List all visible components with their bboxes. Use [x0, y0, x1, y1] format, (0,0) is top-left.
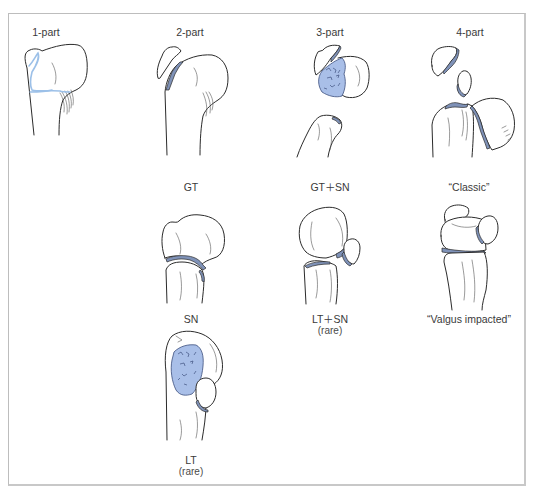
gt-caption: GT [184, 181, 199, 193]
two-part-sn-humerus-illustration [157, 47, 228, 155]
fracture-illustrations [0, 0, 535, 497]
one-part-humerus-illustration [25, 44, 87, 135]
lt-sn-caption: LT＋SN (rare) [312, 313, 348, 337]
one-part-label: 1-part [32, 26, 59, 38]
gt-sn-caption: GT＋SN [310, 181, 349, 193]
two-part-label: 2-part [176, 26, 203, 38]
three-part-lt-sn-illustration [299, 207, 360, 304]
lt-rare-note: (rare) [179, 466, 203, 478]
two-part-gt-illustration [162, 215, 225, 303]
two-part-lt-illustration [165, 331, 222, 440]
four-part-valgus-illustration [441, 205, 498, 310]
lt-sn-rare-note: (rare) [312, 325, 348, 337]
three-part-label: 3-part [316, 26, 343, 38]
lt-sn-caption-text: LT＋SN [312, 313, 348, 325]
lt-caption-text: LT [185, 454, 196, 466]
sn-caption: SN [184, 313, 199, 325]
classic-caption: “Classic” [449, 181, 490, 193]
three-part-gt-sn-illustration [297, 45, 369, 157]
valgus-impacted-caption: “Valgus impacted” [427, 313, 511, 325]
four-part-label: 4-part [456, 26, 483, 38]
four-part-illustration [431, 47, 514, 158]
lt-caption: LT (rare) [179, 454, 203, 478]
